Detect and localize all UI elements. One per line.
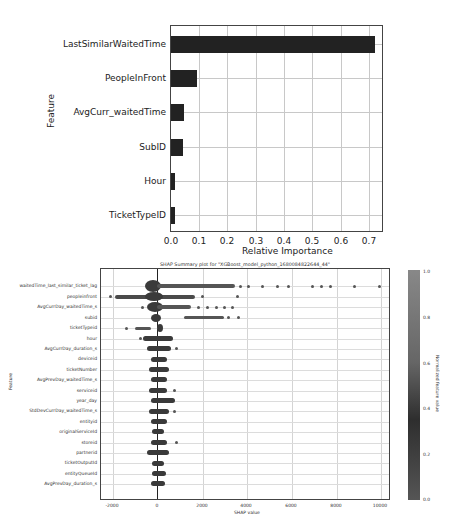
top-x-tick: 0.0 [164,236,178,246]
shap-point [215,306,218,309]
shap-feature-label: originalServiceId [59,429,97,434]
shap-feature-label: ticketTypeid [70,325,97,330]
shap-density [149,388,167,393]
shap-point [197,306,200,309]
shap-density [152,471,166,476]
gridline [284,26,285,231]
gridline [101,359,389,360]
colorbar [408,270,420,500]
gridline [101,370,389,371]
shap-point [239,285,242,288]
shap-x-tick: 10000 [373,503,387,508]
shap-point [353,285,356,288]
colorbar-tick: 0.2 [423,452,430,457]
gridline [101,411,389,412]
shap-feature-label: peopleinfront [67,294,97,299]
importance-bar [171,104,184,121]
shap-density [147,450,169,455]
shap-density [152,461,164,466]
shap-density [151,398,175,403]
gridline [101,391,389,392]
gridline [247,269,248,499]
importance-bar [171,36,375,53]
shap-x-tick: 2000 [196,503,207,508]
shap-density [149,367,169,372]
colorbar-tick: 0.0 [423,497,430,502]
shap-feature-label: AvgPrevDay_duration_s [44,481,97,486]
gridline [101,318,389,319]
top-feature-label: LastSimilarWaitedTime [63,39,166,49]
top-feature-label: TicketTypeID [109,210,166,220]
shap-point [139,337,142,340]
gridline [341,26,342,231]
shap-point [109,295,112,298]
shap-feature-label: waitedTime_last_similar_ticket_lag [19,283,97,288]
top-x-tick: 0.3 [249,236,263,246]
shap-feature-label: subid [85,315,97,320]
gridline [312,26,313,231]
shap-feature-label: AvgPrevDay_waitedTime_s [37,377,97,382]
gridline [101,463,389,464]
gridline [101,401,389,402]
gridline [101,380,389,381]
gridline [101,443,389,444]
importance-bar [171,139,183,156]
shap-point [173,410,176,413]
shap-density [157,305,191,309]
shap-x-tick: -2000 [105,503,118,508]
shap-point [320,285,323,288]
shap-point [175,347,178,350]
colorbar-tick: 0.6 [423,361,430,366]
shap-feature-label: deviceid [78,356,97,361]
colorbar-label: Normalized feature value [435,355,440,412]
gridline [101,422,389,423]
shap-feature-label: hour [87,336,97,341]
gridline [101,453,389,454]
colorbar-tick: 0.8 [423,315,430,320]
shap-density [135,327,151,330]
gridline [199,26,200,231]
importance-bar [171,207,175,224]
shap-point [237,316,240,319]
gridline [381,269,382,499]
shap-density [151,440,167,445]
shap-point [231,306,234,309]
gridline [101,307,389,308]
shap-feature-label: AvgCurrDay_duration_s [44,346,97,351]
shap-feature-label: ticketOutputId [65,460,97,465]
shap-feature-label: partnerid [76,450,97,455]
top-x-tick: 0.6 [334,236,348,246]
gridline [171,112,382,113]
gridline [101,432,389,433]
gridline [292,269,293,499]
top-x-tick: 0.7 [362,236,376,246]
shap-feature-label: storeid [82,440,98,445]
gridline [256,26,257,231]
shap-point [287,285,290,288]
top-x-tick: 0.4 [277,236,291,246]
gridline [171,181,382,182]
shap-density [151,419,167,424]
gridline [113,269,114,499]
shap-density [143,336,173,341]
shap-density [149,409,169,414]
shap-point [329,285,332,288]
shap-point [311,285,314,288]
shap-feature-label: year_day [76,398,97,403]
shap-density [151,357,167,362]
gridline [101,484,389,485]
shap-title: SHAP Summary plot for "XGBoost_model_pyt… [160,262,330,267]
shap-point [276,285,279,288]
shap-point [227,316,230,319]
shap-density [184,316,224,319]
top-feature-label: AvgCurr_waitedTime [73,107,166,117]
gridline [203,269,204,499]
shap-density [157,284,235,288]
shap-density [151,314,161,322]
colorbar-tick: 0.4 [423,406,430,411]
shap-point [236,295,239,298]
shap-plot-area [100,268,390,500]
shap-density [152,429,164,434]
shap-point [175,441,178,444]
shap-feature-label: ticketNumber [66,367,97,372]
